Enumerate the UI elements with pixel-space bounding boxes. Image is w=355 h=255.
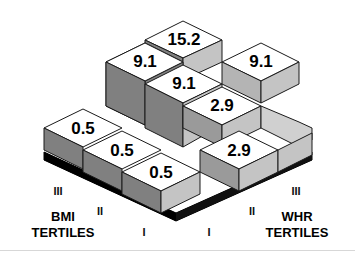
bar-value-label: 9.1 bbox=[133, 52, 157, 71]
tick-whr-III: III bbox=[291, 185, 300, 197]
tick-whr-II: II bbox=[249, 205, 255, 217]
bar-value-label: 2.9 bbox=[227, 141, 251, 160]
bar-value-label: 2.9 bbox=[210, 96, 234, 115]
bar-value-label: 0.5 bbox=[110, 141, 134, 160]
axis-title-whr-line2: TERTILES bbox=[266, 225, 329, 240]
tick-bmi-I: I bbox=[142, 226, 145, 238]
isometric-bar-chart: 15.2 9.1 9.1 9.1 9.1 bbox=[0, 0, 355, 255]
axis-title-bmi-line1: BMI bbox=[51, 209, 75, 224]
axis-title-bmi: BMI TERTILES bbox=[32, 209, 95, 240]
bar-value-label: 0.5 bbox=[71, 119, 95, 138]
axis-title-whr: WHR TERTILES bbox=[266, 209, 329, 240]
bar-value-label: 0.5 bbox=[149, 163, 173, 182]
tick-bmi-II: II bbox=[97, 205, 103, 217]
bottom-divider bbox=[0, 250, 355, 251]
chart-svg: 15.2 9.1 9.1 9.1 9.1 bbox=[0, 0, 355, 255]
bar-value-label: 9.1 bbox=[249, 52, 273, 71]
bar-value-label: 15.2 bbox=[167, 30, 200, 49]
tick-bmi-III: III bbox=[53, 185, 62, 197]
bar-value-label: 9.1 bbox=[172, 74, 196, 93]
tick-whr-I: I bbox=[207, 226, 210, 238]
axis-title-bmi-line2: TERTILES bbox=[32, 225, 95, 240]
axis-title-whr-line1: WHR bbox=[281, 209, 313, 224]
